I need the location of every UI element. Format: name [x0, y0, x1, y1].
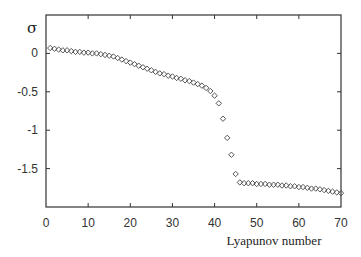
data-series-sigma [48, 45, 344, 196]
x-tick-label: 20 [124, 216, 138, 230]
x-tick-label: 0 [43, 216, 50, 230]
x-tick-label: 50 [250, 216, 264, 230]
data-point-diamond [225, 135, 230, 140]
x-tick-label: 10 [81, 216, 95, 230]
y-tick-label: 0 [31, 46, 38, 60]
plot-border [46, 15, 341, 207]
x-tick-label: 70 [334, 216, 348, 230]
data-point-diamond [233, 171, 238, 176]
x-tick-label: 30 [166, 216, 180, 230]
y-axis-ticks: 0-0.5-1-1.5 [17, 46, 341, 175]
y-tick-label: -0.5 [17, 85, 38, 99]
x-tick-label: 60 [292, 216, 306, 230]
x-axis-title: Lyapunov number [227, 233, 323, 248]
data-point-diamond [216, 101, 221, 106]
chart: 010203040506070 0-0.5-1-1.5 σ Lyapunov n… [0, 0, 361, 257]
data-point-diamond [229, 152, 234, 157]
data-point-diamond [220, 116, 225, 121]
x-axis-ticks: 010203040506070 [43, 15, 348, 230]
plot-frame [46, 15, 341, 207]
data-point-diamond [208, 88, 213, 93]
x-tick-label: 40 [208, 216, 222, 230]
data-point-diamond [212, 93, 217, 98]
y-tick-label: -1.5 [17, 162, 38, 176]
y-tick-label: -1 [27, 123, 38, 137]
y-axis-title: σ [27, 19, 37, 37]
